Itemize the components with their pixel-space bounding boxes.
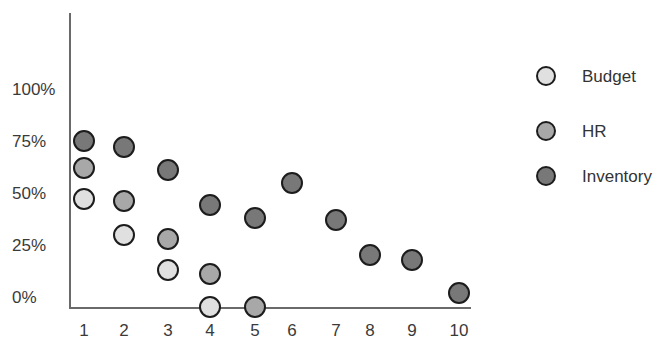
- data-point-budget: [157, 259, 179, 281]
- data-point-budget: [113, 224, 135, 246]
- data-point-inventory: [281, 172, 303, 194]
- legend-marker-icon: [536, 66, 556, 86]
- data-point-hr: [244, 296, 266, 318]
- data-point-hr: [113, 190, 135, 212]
- data-point-inventory: [401, 249, 423, 271]
- y-tick-label: 75%: [12, 133, 46, 150]
- y-axis: [69, 13, 71, 309]
- data-point-inventory: [73, 130, 95, 152]
- legend-marker-icon: [536, 166, 556, 186]
- data-point-inventory: [359, 244, 381, 266]
- x-tick-label: 3: [163, 322, 172, 339]
- x-tick-label: 9: [407, 322, 416, 339]
- data-point-inventory: [244, 207, 266, 229]
- data-point-hr: [199, 263, 221, 285]
- x-tick-label: 1: [79, 322, 88, 339]
- x-tick-label: 7: [331, 322, 340, 339]
- x-axis: [69, 307, 471, 309]
- data-point-budget: [199, 296, 221, 318]
- x-tick-label: 4: [205, 322, 214, 339]
- y-tick-label: 50%: [12, 185, 46, 202]
- x-tick-label: 8: [365, 322, 374, 339]
- y-tick-label: 25%: [12, 237, 46, 254]
- legend-label: Inventory: [582, 168, 652, 185]
- data-point-budget: [73, 188, 95, 210]
- data-point-inventory: [113, 136, 135, 158]
- x-tick-label: 5: [250, 322, 259, 339]
- x-tick-label: 6: [287, 322, 296, 339]
- data-point-inventory: [157, 159, 179, 181]
- data-point-inventory: [325, 209, 347, 231]
- x-tick-label: 2: [119, 322, 128, 339]
- x-tick-label: 10: [450, 322, 469, 339]
- y-tick-label: 0%: [12, 289, 37, 306]
- legend-label: Budget: [582, 68, 636, 85]
- legend-label: HR: [582, 123, 607, 140]
- scatter-chart: 0%25%50%75%100% 12345678910 Budget HR In…: [0, 0, 671, 355]
- data-point-hr: [157, 228, 179, 250]
- data-point-hr: [73, 157, 95, 179]
- legend-marker-icon: [536, 121, 556, 141]
- data-point-inventory: [199, 194, 221, 216]
- data-point-inventory: [448, 282, 470, 304]
- y-tick-label: 100%: [12, 81, 55, 98]
